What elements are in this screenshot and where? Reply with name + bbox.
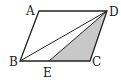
label-e: E — [43, 66, 52, 80]
label-d: D — [109, 5, 119, 19]
label-c: C — [92, 55, 101, 69]
label-b: B — [9, 55, 18, 69]
label-a: A — [25, 4, 35, 18]
parallelogram-diagram: A D B C E — [0, 0, 121, 82]
